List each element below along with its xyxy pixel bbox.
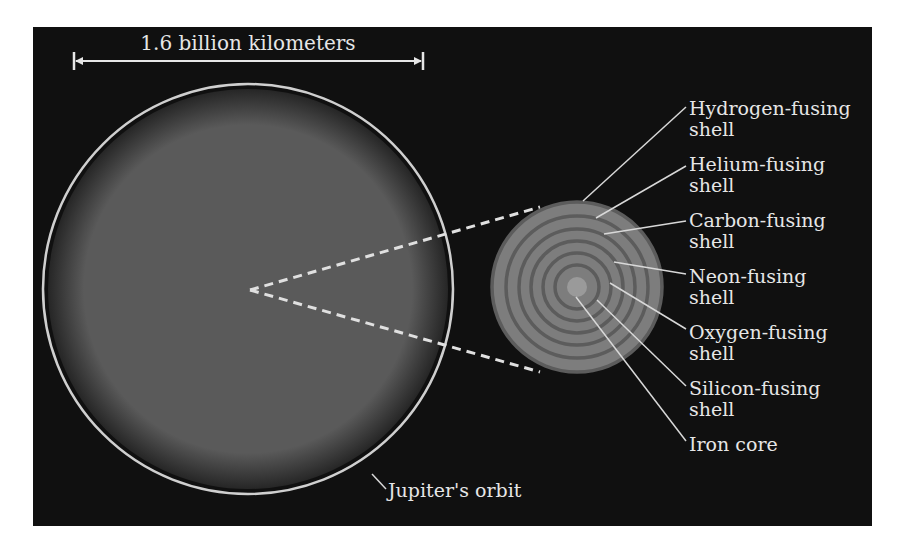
- iron-core: [567, 277, 587, 297]
- core-shell-structure: [492, 202, 662, 372]
- supergiant-structure-diagram: 1.6 billion kilometers Jupiter's orbit H…: [0, 0, 901, 546]
- scale-bar-label: 1.6 billion kilometers: [140, 31, 355, 55]
- diagram-canvas: 1.6 billion kilometers Jupiter's orbit H…: [0, 0, 901, 546]
- jupiter-orbit-label: Jupiter's orbit: [386, 479, 522, 501]
- star-envelope: [48, 89, 448, 489]
- shell-label-text: Iron core: [689, 433, 778, 455]
